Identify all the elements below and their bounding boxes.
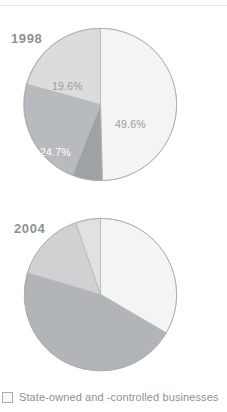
pie-slice-label-1998-3: 24.7%	[40, 146, 71, 158]
chart-legend: State-owned and -controlled businesses	[2, 391, 218, 403]
chart-block-2004: 2004 38.0% 42.1% 30.8% 5.3%	[0, 205, 227, 385]
legend-swatch-state-owned	[2, 392, 13, 403]
chart-block-1998: 1998 49.6% 19.6% 24.7% 6.4%	[0, 14, 227, 206]
pie-svg-2004	[22, 216, 179, 373]
pie-chart-figure: 1998 49.6% 19.6% 24.7% 6.4% 2004	[0, 0, 227, 412]
pie-chart-1998	[22, 26, 179, 183]
legend-label-state-owned: State-owned and -controlled businesses	[19, 391, 218, 403]
pie-slice-1998-1[interactable]	[101, 28, 177, 180]
pie-chart-2004	[22, 216, 179, 373]
pie-slice-label-1998-4: 6.4%	[69, 182, 94, 194]
pie-slice-label-1998-2: 19.6%	[52, 80, 83, 92]
top-divider	[0, 5, 227, 6]
pie-slice-label-1998-1: 49.6%	[115, 118, 146, 130]
pie-svg-1998	[22, 26, 179, 183]
